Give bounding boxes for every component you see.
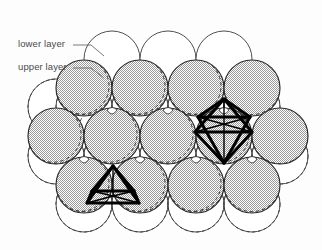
upper-layer-sphere bbox=[84, 108, 140, 164]
upper-layer-sphere bbox=[112, 60, 168, 116]
upper-layer-sphere bbox=[168, 157, 224, 213]
upper-layer-group bbox=[28, 60, 308, 213]
upper-layer-sphere bbox=[224, 157, 280, 213]
upper-layer-sphere bbox=[112, 157, 168, 213]
upper-layer-sphere bbox=[252, 108, 308, 164]
upper-layer-sphere bbox=[28, 108, 84, 164]
upper-layer-sphere bbox=[56, 157, 112, 213]
upper-layer-label: upper layer bbox=[18, 61, 67, 72]
lower-layer-label: lower layer bbox=[18, 38, 65, 49]
upper-layer-sphere bbox=[140, 108, 196, 164]
